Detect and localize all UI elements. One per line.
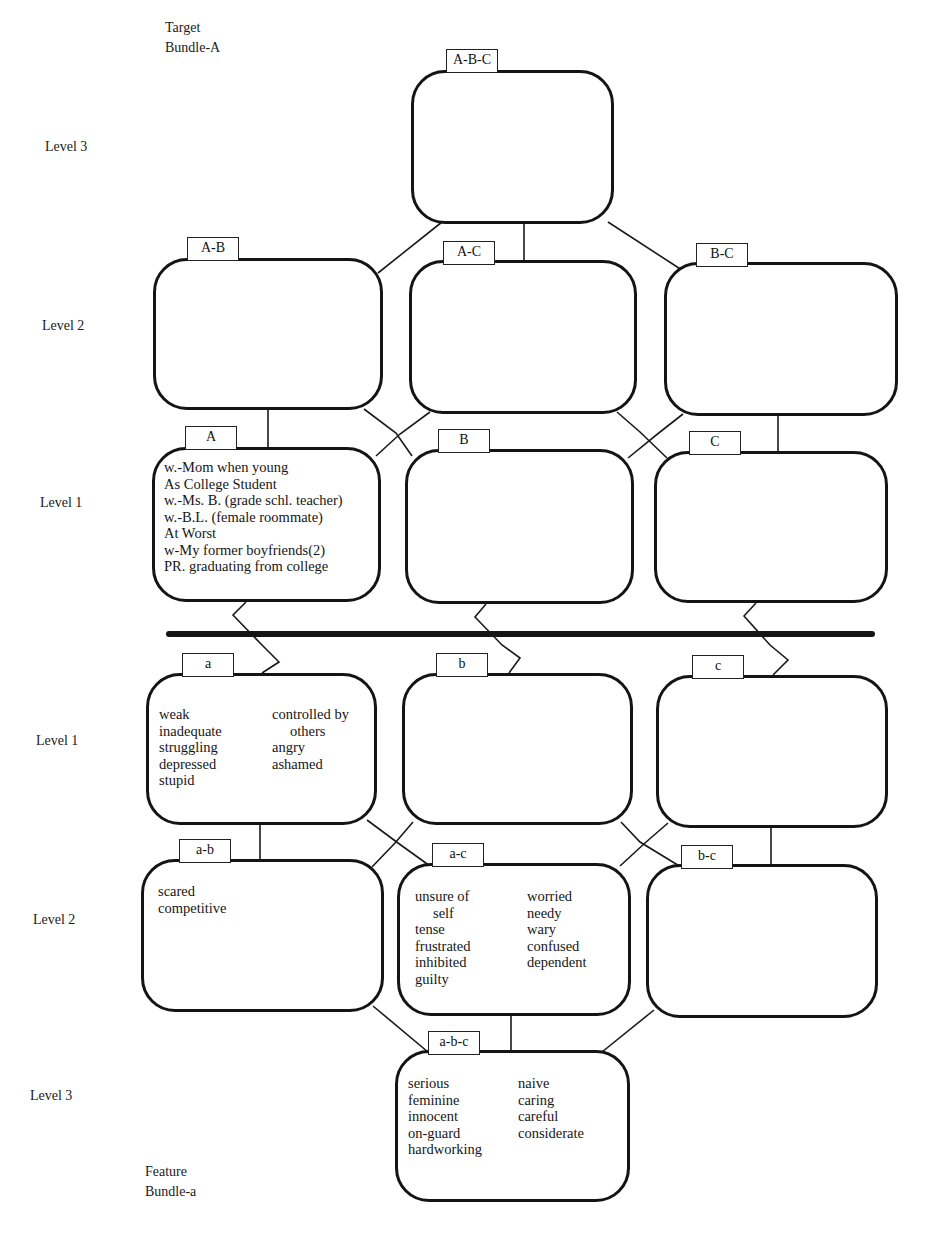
node-box-C xyxy=(654,451,888,603)
level-label-upper-2: Level 2 xyxy=(42,317,84,335)
node-a-item: weak xyxy=(159,706,222,723)
node-a-item: ashamed xyxy=(272,756,349,773)
level-label-upper-1: Level 1 xyxy=(40,494,82,512)
target-bundle-label: Target Bundle-A xyxy=(165,18,220,58)
node-a-b-c-item: naive xyxy=(518,1075,584,1092)
node-A-item: w.-Mom when young xyxy=(164,459,343,476)
node-a-b-c-item: caring xyxy=(518,1092,584,1109)
node-a-b-c-item: on-guard xyxy=(408,1125,482,1142)
node-tab-a-b-c: a-b-c xyxy=(428,1031,480,1055)
node-a-b-c-item: hardworking xyxy=(408,1141,482,1158)
node-a-item: angry xyxy=(272,739,349,756)
node-box-b xyxy=(402,673,633,825)
node-a-c-item: guilty xyxy=(415,971,471,988)
node-box-b-c xyxy=(646,864,878,1018)
node-a-c-item: inhibited xyxy=(415,954,471,971)
node-a-c-item: confused xyxy=(527,938,587,955)
node-A-content: w.-Mom when young As College Student w.-… xyxy=(164,459,343,575)
level-label-lower-1: Level 1 xyxy=(36,732,78,750)
node-tab-a-b: a-b xyxy=(179,839,231,863)
node-a-c-col2: worried needy wary confused dependent xyxy=(527,888,587,971)
node-a-c-item: worried xyxy=(527,888,587,905)
node-a-b-c-item: considerate xyxy=(518,1125,584,1142)
node-a-c-item: unsure of xyxy=(415,888,471,905)
node-a-c-item: frustrated xyxy=(415,938,471,955)
node-tab-B: B xyxy=(438,429,490,453)
node-a-b-c-col1: serious feminine innocent on-guard hardw… xyxy=(408,1075,482,1158)
node-a-b-c-item: feminine xyxy=(408,1092,482,1109)
node-A-item: PR. graduating from college xyxy=(164,558,343,575)
node-a-c-item: tense xyxy=(415,921,471,938)
target-bundle-line1: Target xyxy=(165,18,220,38)
node-box-B xyxy=(405,449,634,604)
node-A-item: As College Student xyxy=(164,476,343,493)
target-bundle-line2: Bundle-A xyxy=(165,38,220,58)
node-a-b-item: scared xyxy=(158,883,226,900)
node-a-c-item: self xyxy=(415,905,471,922)
node-a-item: inadequate xyxy=(159,723,222,740)
node-tab-a: a xyxy=(182,653,234,677)
node-tab-B-C: B-C xyxy=(696,243,748,267)
node-a-item: stupid xyxy=(159,772,222,789)
node-A-item: w-My former boyfriends(2) xyxy=(164,542,343,559)
feature-bundle-line1: Feature xyxy=(145,1162,196,1182)
node-tab-A: A xyxy=(185,426,237,450)
node-a-c-item: needy xyxy=(527,905,587,922)
node-tab-A-B-C: A-B-C xyxy=(446,49,498,73)
node-box-c xyxy=(656,675,888,828)
node-tab-b-c: b-c xyxy=(681,845,733,869)
node-box-a-b xyxy=(141,859,384,1012)
node-box-A-B xyxy=(153,258,383,410)
node-tab-A-B: A-B xyxy=(187,237,239,261)
feature-bundle-label: Feature Bundle-a xyxy=(145,1162,196,1202)
node-a-item: others xyxy=(272,723,349,740)
node-a-c-item: dependent xyxy=(527,954,587,971)
node-a-b-c-item: serious xyxy=(408,1075,482,1092)
node-A-item: w.-Ms. B. (grade schl. teacher) xyxy=(164,492,343,509)
bundle-divider xyxy=(166,631,875,637)
node-box-B-C xyxy=(664,262,898,416)
node-box-A-B-C xyxy=(411,70,614,224)
node-a-item: struggling xyxy=(159,739,222,756)
node-a-b-content: scared competitive xyxy=(158,883,226,916)
node-tab-a-c: a-c xyxy=(432,843,484,867)
node-a-c-item: wary xyxy=(527,921,587,938)
node-tab-c: c xyxy=(692,655,744,679)
node-A-item: At Worst xyxy=(164,525,343,542)
node-a-c-col1: unsure of self tense frustrated inhibite… xyxy=(415,888,471,987)
node-a-col1: weak inadequate struggling depressed stu… xyxy=(159,706,222,789)
level-label-upper-3: Level 3 xyxy=(45,138,87,156)
node-tab-C: C xyxy=(689,431,741,455)
level-label-lower-2: Level 2 xyxy=(33,911,75,929)
node-a-b-c-col2: naive caring careful considerate xyxy=(518,1075,584,1141)
node-tab-b: b xyxy=(436,653,488,677)
node-a-b-c-item: careful xyxy=(518,1108,584,1125)
node-a-item: depressed xyxy=(159,756,222,773)
node-a-col2: controlled by others angry ashamed xyxy=(272,706,349,772)
node-a-item: controlled by xyxy=(272,706,349,723)
node-A-item: w.-B.L. (female roommate) xyxy=(164,509,343,526)
node-a-b-item: competitive xyxy=(158,900,226,917)
node-a-b-c-item: innocent xyxy=(408,1108,482,1125)
level-label-lower-3: Level 3 xyxy=(30,1087,72,1105)
node-tab-A-C: A-C xyxy=(443,241,495,265)
feature-bundle-line2: Bundle-a xyxy=(145,1182,196,1202)
node-box-A-C xyxy=(409,260,637,414)
